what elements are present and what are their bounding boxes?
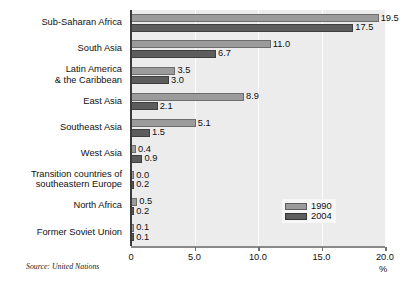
gridline-20.0 xyxy=(385,10,386,246)
bar-2004 xyxy=(131,102,158,110)
category-label: North Africa xyxy=(0,200,122,211)
x-tick xyxy=(195,247,197,251)
bar-value-label: 17.5 xyxy=(355,23,373,33)
bar-1990 xyxy=(131,40,271,48)
legend-swatch-1990 xyxy=(285,203,307,210)
bar-1990 xyxy=(131,119,196,127)
bar-value-label: 2.1 xyxy=(160,102,173,112)
bar-value-label: 1.5 xyxy=(152,128,165,138)
bar-2004 xyxy=(131,50,216,58)
bar-value-label: 6.7 xyxy=(218,49,231,59)
category-label: Sub-Saharan Africa xyxy=(0,17,122,28)
category-label: West Asia xyxy=(0,148,122,159)
legend-label-2004: 2004 xyxy=(311,211,332,221)
category-label: Former Soviet Union xyxy=(0,227,122,238)
bar-value-label: 0.2 xyxy=(136,180,149,190)
source-note: Source: United Nations xyxy=(26,262,99,271)
legend-item-2004: 2004 xyxy=(285,211,332,221)
bar-value-label: 8.9 xyxy=(246,92,259,102)
bar-value-label: 19.5 xyxy=(381,14,399,24)
bar-1990 xyxy=(131,67,175,75)
chart-container: 19.517.511.06.73.53.08.92.15.11.50.40.90… xyxy=(0,0,408,289)
bar-2004 xyxy=(131,24,353,32)
x-tick-label: 5.0 xyxy=(188,252,201,262)
bar-value-label: 5.1 xyxy=(198,119,211,129)
legend-swatch-2004 xyxy=(285,213,307,220)
category-label: East Asia xyxy=(0,96,122,107)
x-tick xyxy=(322,247,324,251)
bar-2004 xyxy=(131,76,169,84)
bar-2004 xyxy=(131,155,142,163)
bar-1990 xyxy=(131,14,379,22)
x-axis-unit-label: % xyxy=(379,264,387,274)
bar-value-label: 0.2 xyxy=(136,207,149,217)
plot-area: 19.517.511.06.73.53.08.92.15.11.50.40.90… xyxy=(131,10,385,246)
bar-value-label: 11.0 xyxy=(273,40,290,50)
legend-label-1990: 1990 xyxy=(311,201,332,211)
category-label: Transition countries of southeastern Eur… xyxy=(0,169,122,190)
x-tick-label: 15.0 xyxy=(312,252,330,262)
category-label: Southeast Asia xyxy=(0,122,122,133)
category-label: Latin America & the Caribbean xyxy=(0,64,122,85)
x-tick-label: 10.0 xyxy=(249,252,267,262)
chart-legend: 1990 2004 xyxy=(282,199,336,223)
bar-value-label: 0.9 xyxy=(144,154,157,164)
x-tick xyxy=(258,247,260,251)
bar-2004 xyxy=(131,129,150,137)
bar-1990 xyxy=(131,145,136,153)
category-labels: Sub-Saharan AfricaSouth AsiaLatin Americ… xyxy=(0,10,126,246)
bar-1990 xyxy=(131,198,137,206)
x-tick-label: 20.0 xyxy=(376,252,394,262)
x-tick-label: 0 xyxy=(128,252,133,262)
category-label: South Asia xyxy=(0,43,122,54)
y-axis-line xyxy=(130,10,132,246)
bar-value-label: 0.1 xyxy=(136,233,149,243)
x-tick xyxy=(385,247,387,251)
legend-item-1990: 1990 xyxy=(285,201,332,211)
bar-1990 xyxy=(131,93,244,101)
bar-value-label: 3.0 xyxy=(171,76,184,86)
